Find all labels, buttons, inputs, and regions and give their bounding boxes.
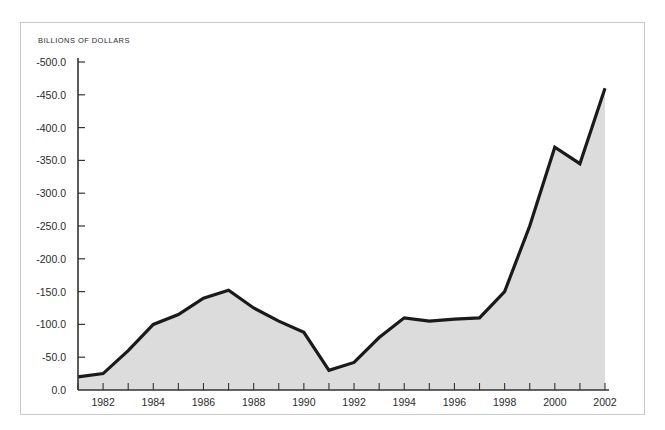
chart-plot-area: 0.0-50.0-100.0-150.0-200.0-250.0-300.0-3… <box>0 0 665 430</box>
svg-text:0.0: 0.0 <box>51 384 66 396</box>
svg-text:-400.0: -400.0 <box>36 122 66 134</box>
deficit-area-chart: 0.0-50.0-100.0-150.0-200.0-250.0-300.0-3… <box>0 0 665 430</box>
svg-text:-300.0: -300.0 <box>36 187 66 199</box>
svg-text:1992: 1992 <box>342 396 366 408</box>
svg-text:-50.0: -50.0 <box>42 351 66 363</box>
svg-text:2002: 2002 <box>593 396 617 408</box>
svg-text:1990: 1990 <box>292 396 316 408</box>
svg-text:2000: 2000 <box>543 396 567 408</box>
svg-text:1988: 1988 <box>242 396 266 408</box>
y-axis <box>78 58 85 390</box>
svg-text:-450.0: -450.0 <box>36 89 66 101</box>
x-tick-labels: 1982198419861988199019921994199619982000… <box>91 396 616 408</box>
svg-text:1982: 1982 <box>91 396 115 408</box>
svg-text:1996: 1996 <box>443 396 467 408</box>
svg-text:-350.0: -350.0 <box>36 154 66 166</box>
y-tick-labels: 0.0-50.0-100.0-150.0-200.0-250.0-300.0-3… <box>36 56 66 396</box>
svg-text:-200.0: -200.0 <box>36 253 66 265</box>
screenshot-page: BILLIONS OF DOLLARS 0.0-50.0-100.0-150.0… <box>0 0 665 430</box>
svg-text:1984: 1984 <box>142 396 166 408</box>
svg-text:1998: 1998 <box>493 396 517 408</box>
svg-text:-250.0: -250.0 <box>36 220 66 232</box>
svg-text:1986: 1986 <box>192 396 216 408</box>
svg-text:-500.0: -500.0 <box>36 56 66 68</box>
svg-text:-100.0: -100.0 <box>36 318 66 330</box>
svg-text:-150.0: -150.0 <box>36 286 66 298</box>
svg-text:1994: 1994 <box>393 396 417 408</box>
